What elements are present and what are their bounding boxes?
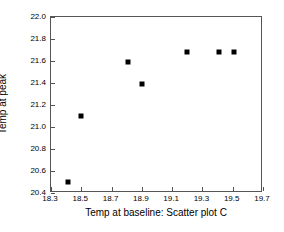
x-axis-tick-label: 18.5: [72, 194, 88, 203]
x-axis-tick: [263, 187, 264, 191]
x-axis-tick-label: 18.7: [103, 194, 119, 203]
data-point: [185, 50, 190, 55]
scatter-plot-figure: Temp at peak 20.420.620.821.021.221.421.…: [0, 0, 284, 232]
y-axis-tick-label: 21.4: [30, 78, 46, 87]
data-point: [139, 82, 144, 87]
y-axis-title: Temp at peak: [0, 74, 8, 134]
x-axis-tick-label: 19.7: [254, 194, 270, 203]
data-points-layer: [51, 17, 261, 191]
y-axis-tick-label: 21.0: [30, 122, 46, 131]
x-axis-tick-label: 19.3: [194, 194, 210, 203]
y-axis-tick-label: 21.2: [30, 100, 46, 109]
data-point: [126, 60, 131, 65]
x-axis-tick-label: 19.1: [163, 194, 179, 203]
plot-area: [50, 16, 262, 192]
x-axis-tick-label: 19.5: [224, 194, 240, 203]
data-point: [79, 114, 84, 119]
x-axis-tick-label: 18.9: [133, 194, 149, 203]
data-point: [65, 180, 70, 185]
x-axis-tick-label: 18.3: [42, 194, 58, 203]
y-axis-tick-label: 21.8: [30, 34, 46, 43]
y-axis-tick-label: 20.8: [30, 144, 46, 153]
y-axis-tick: [51, 193, 55, 194]
y-axis-tick-label: 22.0: [30, 12, 46, 21]
data-point: [232, 50, 237, 55]
y-axis-tick-label: 21.6: [30, 56, 46, 65]
data-point: [217, 50, 222, 55]
y-axis-tick-label: 20.6: [30, 166, 46, 175]
x-axis-title: Temp at baseline: Scatter plot C: [50, 207, 262, 218]
